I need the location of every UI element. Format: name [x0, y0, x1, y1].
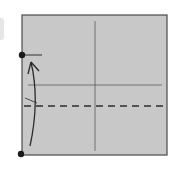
- origami-diagram: [0, 0, 176, 170]
- top-reference-dot: [19, 52, 25, 58]
- bottom-corner-dot: [18, 151, 24, 157]
